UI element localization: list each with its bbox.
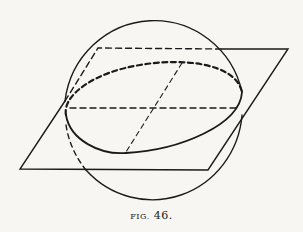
sphere-lower-outline	[86, 115, 242, 200]
plane-hidden-edges	[65, 48, 222, 101]
figure-caption: FIG. 46.	[0, 209, 303, 222]
caption-prefix: FIG.	[130, 212, 149, 221]
sphere-upper-outline	[65, 21, 242, 101]
sphere-plane-diagram	[0, 0, 303, 232]
section-circle-back	[66, 62, 242, 115]
caption-number: 46.	[154, 209, 173, 222]
plane-front-edges	[20, 49, 288, 170]
sphere-hidden-outline	[66, 125, 86, 170]
section-circle-front	[66, 92, 242, 153]
